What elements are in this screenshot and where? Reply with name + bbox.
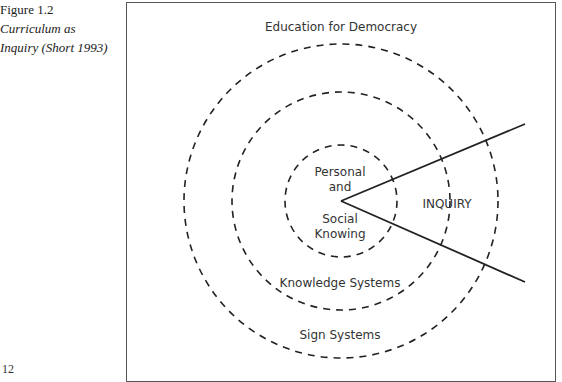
outer-ring-label: Sign Systems (300, 328, 381, 342)
inquiry-label: INQUIRY (422, 197, 472, 211)
inner-label-line2: and (329, 180, 352, 194)
wedge-lower-line (341, 201, 525, 282)
middle-ring-label: Knowledge Systems (280, 276, 401, 290)
wedge-upper-line (341, 124, 525, 201)
outer-label: Education for Democracy (265, 20, 417, 34)
inner-label-line1: Personal (314, 165, 365, 179)
inner-label-line4: Knowing (314, 227, 365, 241)
inner-label-line3: Social (322, 212, 358, 226)
